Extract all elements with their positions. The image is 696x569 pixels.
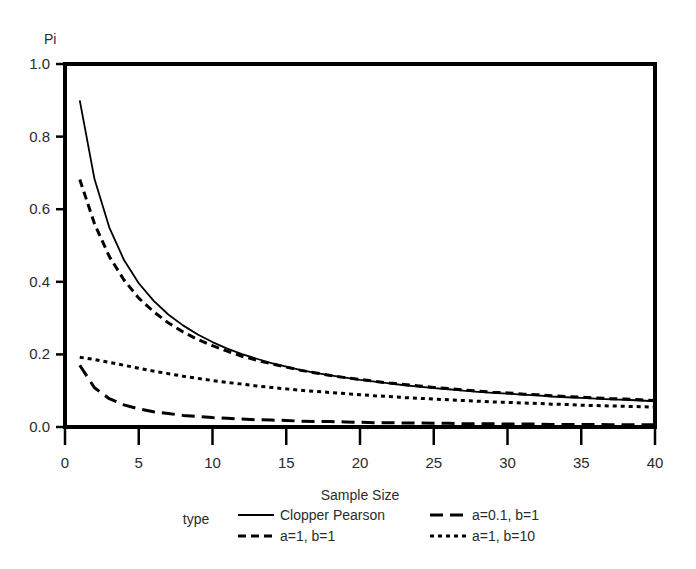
y-tick-label: 1.0 xyxy=(29,55,50,72)
x-tick-label: 35 xyxy=(573,454,590,471)
x-tick-label: 0 xyxy=(61,454,69,471)
x-tick-label: 20 xyxy=(352,454,369,471)
x-tick-label: 10 xyxy=(204,454,221,471)
y-tick-label: 0.4 xyxy=(29,273,50,290)
x-tick-label: 40 xyxy=(647,454,664,471)
x-tick-label: 5 xyxy=(135,454,143,471)
y-axis-title: Pi xyxy=(44,31,56,47)
legend-entry-label: a=0.1, b=1 xyxy=(472,507,539,523)
line-chart: Pi 0.00.20.40.60.81.0 0510152025303540 S… xyxy=(0,0,696,569)
legend-entry-label: a=1, b=1 xyxy=(280,528,335,544)
legend-entry-label: a=1, b=10 xyxy=(472,528,535,544)
y-tick-label: 0.0 xyxy=(29,418,50,435)
x-axis-title: Sample Size xyxy=(321,487,400,503)
chart-figure: Pi 0.00.20.40.60.81.0 0510152025303540 S… xyxy=(0,0,696,569)
x-tick-label: 15 xyxy=(278,454,295,471)
x-tick-label: 25 xyxy=(425,454,442,471)
chart-background xyxy=(0,0,696,569)
y-tick-label: 0.8 xyxy=(29,128,50,145)
y-tick-label: 0.6 xyxy=(29,200,50,217)
x-tick-label: 30 xyxy=(499,454,516,471)
y-tick-label: 0.2 xyxy=(29,345,50,362)
legend-entry-label: Clopper Pearson xyxy=(280,507,385,523)
legend-title: type xyxy=(183,511,210,527)
